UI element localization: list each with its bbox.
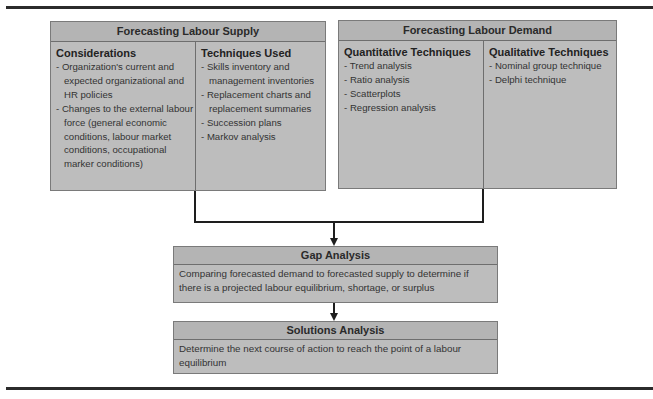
list-item: Nominal group technique (489, 59, 617, 73)
list-item: Delphi technique (489, 73, 617, 87)
supply-title: Forecasting Labour Supply (117, 25, 259, 37)
list-item: Markov analysis (201, 130, 326, 144)
demand-connector-vertical (482, 189, 484, 223)
qualitative-title: Qualitative Techniques (489, 45, 617, 59)
supply-header: Forecasting Labour Supply (51, 22, 325, 42)
list-item: Scatterplots (344, 87, 483, 101)
list-item: Trend analysis (344, 59, 483, 73)
supply-box: Forecasting Labour Supply Considerations… (50, 21, 326, 191)
solutions-analysis-header: Solutions Analysis (174, 322, 497, 340)
bottom-rule (6, 387, 653, 390)
list-item: Replacement charts and replacement summa… (201, 88, 326, 116)
list-item: Skills inventory and management inventor… (201, 60, 326, 88)
considerations-list: Organization's current and expected orga… (56, 60, 195, 171)
considerations-column: Considerations Organization's current an… (51, 42, 195, 171)
solutions-analysis-title: Solutions Analysis (286, 324, 384, 336)
gap-analysis-header: Gap Analysis (174, 247, 497, 265)
techniques-list: Skills inventory and management inventor… (201, 60, 326, 143)
arrow-down-icon (330, 238, 338, 246)
gap-analysis-title: Gap Analysis (301, 249, 370, 261)
qualitative-column: Qualitative Techniques Nominal group tec… (484, 41, 617, 87)
list-item: Organization's current and expected orga… (56, 60, 195, 102)
gap-analysis-box: Gap Analysis Comparing forecasted demand… (173, 246, 498, 303)
demand-title: Forecasting Labour Demand (403, 24, 552, 36)
connector-horizontal (194, 221, 484, 223)
top-rule (6, 6, 653, 9)
list-item: Succession plans (201, 116, 326, 130)
solutions-analysis-box: Solutions Analysis Determine the next co… (173, 321, 498, 374)
supply-connector-vertical (194, 191, 196, 223)
gap-analysis-text: Comparing forecasted demand to forecaste… (179, 267, 491, 295)
techniques-column: Techniques Used Skills inventory and man… (196, 42, 326, 143)
arrow-down-icon (330, 313, 338, 321)
quantitative-list: Trend analysis Ratio analysis Scatterplo… (344, 59, 483, 115)
solutions-analysis-text: Determine the next course of action to r… (179, 342, 491, 370)
list-item: Regression analysis (344, 101, 483, 115)
gap-connector-vertical (333, 223, 335, 239)
list-item: Changes to the external labour force (ge… (56, 102, 195, 172)
quantitative-column: Quantitative Techniques Trend analysis R… (339, 41, 483, 115)
demand-header: Forecasting Labour Demand (339, 21, 616, 41)
quantitative-title: Quantitative Techniques (344, 45, 483, 59)
techniques-title: Techniques Used (201, 46, 326, 60)
considerations-title: Considerations (56, 46, 195, 60)
list-item: Ratio analysis (344, 73, 483, 87)
qualitative-list: Nominal group technique Delphi technique (489, 59, 617, 87)
demand-box: Forecasting Labour Demand Quantitative T… (338, 20, 617, 189)
